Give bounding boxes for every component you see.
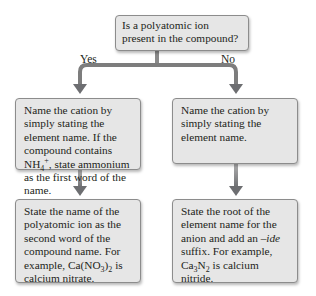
arrow-down-icon: [229, 84, 243, 94]
yes-step1-box: Name the cation by simply stating the el…: [15, 98, 141, 170]
arrow-down-icon: [73, 186, 87, 196]
question-box: Is a polyatomic ion present in the compo…: [115, 15, 249, 51]
no-step2-box: State the root of the element name for t…: [172, 199, 298, 283]
arrow-down-icon: [229, 186, 243, 196]
yes-step2-box: State the name of the polyatomic ion as …: [15, 199, 141, 283]
no-label: No: [221, 53, 235, 65]
question-text: Is a polyatomic ion present in the compo…: [122, 19, 238, 44]
no-step1-box: Name the cation by simply stating the el…: [172, 98, 298, 164]
no-step1-text: Name the cation by simply stating the el…: [181, 104, 269, 143]
no-step2-text: State the root of the element name for t…: [181, 205, 280, 284]
arrow-down-icon: [73, 84, 87, 94]
yes-step2-text: State the name of the polyatomic ion as …: [24, 205, 123, 284]
yes-label: Yes: [80, 53, 97, 65]
yes-step1-text: Name the cation by simply stating the el…: [24, 104, 129, 196]
